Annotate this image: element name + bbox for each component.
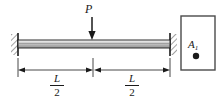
- dim-arrowhead-right-start: [94, 67, 101, 72]
- right-support-hatching: [170, 34, 177, 55]
- load-arrow-head: [88, 31, 95, 40]
- dimension-left-denominator: 2: [44, 86, 70, 98]
- left-support-hatching: [11, 34, 18, 55]
- beam-member: [18, 40, 170, 48]
- cross-section-label-A1: A1: [188, 39, 198, 52]
- dimension-right-denominator: 2: [119, 86, 145, 98]
- dimension-lines: [18, 58, 170, 77]
- dim-arrowhead-right-end: [163, 67, 170, 72]
- cross-section-point-marker: [193, 53, 199, 59]
- dimension-label-right-span: L 2: [119, 73, 145, 98]
- beam-body: [18, 40, 170, 48]
- load-label-P: P: [85, 3, 92, 15]
- cross-section-label-main: A: [188, 38, 195, 50]
- dim-arrowhead-left-end: [86, 67, 93, 72]
- dimension-label-left-span: L 2: [44, 73, 70, 98]
- dim-arrowhead-left-start: [18, 67, 25, 72]
- point-load-arrow: [88, 17, 95, 40]
- beam-diagram-figure: [0, 0, 222, 107]
- dimension-right-numerator: L: [119, 73, 145, 85]
- cross-section-label-subscript: 1: [195, 44, 199, 52]
- dimension-left-numerator: L: [44, 73, 70, 85]
- left-fixed-support: [11, 33, 18, 56]
- right-fixed-support: [170, 33, 177, 56]
